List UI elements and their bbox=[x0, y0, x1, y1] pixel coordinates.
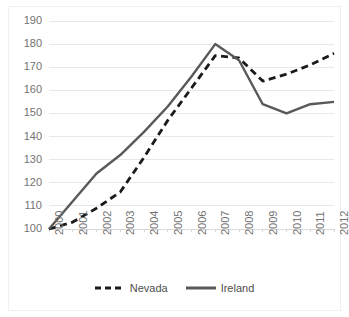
y-tick-label: 160 bbox=[14, 84, 42, 95]
x-tick-label: 2008 bbox=[244, 211, 255, 235]
y-tick-label: 150 bbox=[14, 107, 42, 118]
x-tick-label: 2011 bbox=[315, 211, 326, 235]
x-tick-label: 2003 bbox=[125, 211, 136, 235]
x-tick-label: 2001 bbox=[78, 211, 89, 235]
x-tick-label: 2000 bbox=[54, 211, 65, 235]
legend-label-nevada: Nevada bbox=[130, 282, 168, 294]
chart-legend: Nevada Ireland bbox=[0, 282, 349, 294]
chart-canvas bbox=[0, 0, 349, 317]
y-tick-label: 100 bbox=[14, 223, 42, 234]
y-tick-label: 120 bbox=[14, 177, 42, 188]
x-tick-label: 2009 bbox=[268, 211, 279, 235]
y-tick-label: 170 bbox=[14, 61, 42, 72]
legend-swatch-ireland bbox=[186, 283, 216, 293]
y-tick-label: 130 bbox=[14, 154, 42, 165]
line-chart: 100110120130140150160170180190 200020012… bbox=[0, 0, 349, 317]
x-tick-label: 2006 bbox=[197, 211, 208, 235]
legend-swatch-nevada bbox=[95, 283, 125, 293]
x-tick-label: 2012 bbox=[339, 211, 349, 235]
x-tick-label: 2007 bbox=[220, 211, 231, 235]
x-tick-label: 2004 bbox=[149, 211, 160, 235]
y-tick-label: 190 bbox=[14, 15, 42, 26]
y-tick-label: 110 bbox=[14, 200, 42, 211]
legend-label-ireland: Ireland bbox=[221, 282, 255, 294]
x-tick-label: 2002 bbox=[102, 211, 113, 235]
series-line-nevada bbox=[49, 53, 334, 229]
gridline-group bbox=[49, 21, 334, 229]
x-tick-label: 2010 bbox=[292, 211, 303, 235]
y-tick-label: 180 bbox=[14, 38, 42, 49]
x-tick-label: 2005 bbox=[173, 211, 184, 235]
legend-item-ireland[interactable]: Ireland bbox=[186, 282, 255, 294]
y-tick-label: 140 bbox=[14, 131, 42, 142]
legend-item-nevada[interactable]: Nevada bbox=[95, 282, 168, 294]
